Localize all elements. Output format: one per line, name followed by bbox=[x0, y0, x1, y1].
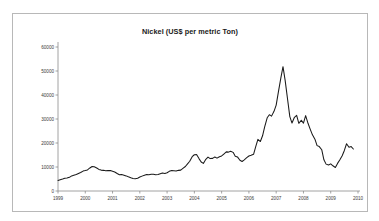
x-tick-label: 2006 bbox=[244, 196, 255, 201]
x-tick-label: 1999 bbox=[53, 196, 64, 201]
x-tick-label: 2005 bbox=[217, 196, 228, 201]
x-tick-label: 2004 bbox=[189, 196, 200, 201]
x-tick-label: 2010 bbox=[353, 196, 364, 201]
x-tick-label: 2002 bbox=[135, 196, 146, 201]
y-tick-label: 60000 bbox=[41, 45, 54, 50]
figure-frame: Nickel (US$ per metric Ton) 010000200003… bbox=[12, 13, 368, 212]
y-tick-label: 50000 bbox=[41, 69, 54, 74]
y-tick-label: 40000 bbox=[41, 93, 54, 98]
x-tick-label: 2001 bbox=[107, 196, 118, 201]
y-tick-label: 10000 bbox=[41, 165, 54, 170]
y-axis: 0100002000030000400005000060000 bbox=[41, 42, 58, 194]
data-series-group bbox=[58, 67, 353, 181]
line-chart-plot: 0100002000030000400005000060000 19992000… bbox=[13, 14, 369, 213]
x-tick-label: 2007 bbox=[271, 196, 282, 201]
y-tick-label: 20000 bbox=[41, 141, 54, 146]
x-tick-label: 2003 bbox=[162, 196, 173, 201]
series-line-nickel-price bbox=[58, 67, 353, 181]
x-axis: 1999200020012002200320042005200620072008… bbox=[53, 191, 364, 201]
x-tick-label: 2009 bbox=[326, 196, 337, 201]
x-tick-label: 2000 bbox=[80, 196, 91, 201]
y-tick-label: 0 bbox=[51, 189, 54, 194]
x-tick-label: 2008 bbox=[298, 196, 309, 201]
chart-screenshot: Nickel (US$ per metric Ton) 010000200003… bbox=[0, 0, 379, 221]
y-tick-label: 30000 bbox=[41, 117, 54, 122]
